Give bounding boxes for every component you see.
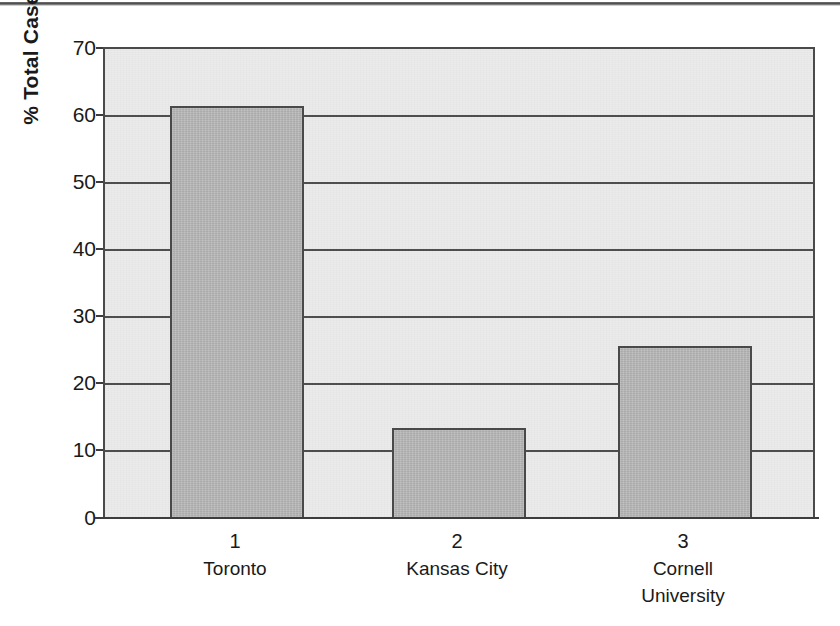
bar-cornell-university[interactable] [618,346,752,519]
y-tick-label-70: 70 [50,37,96,58]
y-tick-label-10: 10 [50,439,96,460]
bar-kansas-city[interactable] [392,428,526,519]
bar-toronto[interactable] [170,106,304,519]
y-tick-label-30: 30 [50,305,96,326]
plot-area [103,47,815,519]
y-tick-label-60: 60 [50,104,96,125]
x-tick-group-3: 3 Cornell University [548,528,818,609]
y-axis-ticks: 70 60 50 40 30 20 10 0 [40,0,96,626]
y-tick-label-0: 0 [50,507,96,528]
x-tick-name-3a: Cornell [548,555,818,582]
y-tick-label-40: 40 [50,238,96,259]
x-axis-line [95,517,819,519]
x-tick-name-3b: University [548,582,818,609]
x-tick-index-3: 3 [548,528,818,555]
y-tick-label-50: 50 [50,171,96,192]
y-tick-label-20: 20 [50,372,96,393]
bar-chart-figure: % Total Caseload 70 60 50 40 30 20 10 0 [0,0,840,626]
